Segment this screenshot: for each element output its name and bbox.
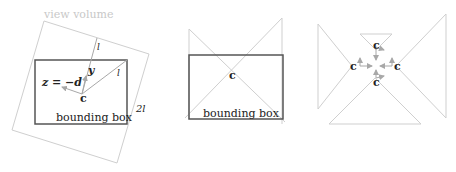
center-c-label: c — [80, 92, 87, 105]
view-volume-label: view volume — [43, 8, 114, 21]
bounding-box-label: bounding box — [203, 107, 280, 120]
right-panel: c c c c — [318, 14, 446, 124]
left-panel: view volume l l y z = −d c 2l bounding b… — [12, 8, 149, 163]
middle-panel: c bounding box — [185, 18, 285, 124]
l-top-label: l — [97, 42, 100, 52]
bounding-box-label: bounding box — [56, 111, 133, 124]
top-c-label: c — [373, 39, 380, 52]
left-frustum-triangle — [318, 24, 352, 109]
diagram-canvas: view volume l l y z = −d c 2l bounding b… — [0, 0, 456, 172]
frustum-diag-2 — [185, 18, 282, 118]
two-l-label: 2l — [135, 103, 146, 114]
y-label: y — [87, 64, 96, 77]
right-frustum-triangle — [396, 14, 446, 118]
right-c-label: c — [394, 60, 401, 73]
z-equation-label: z = −d — [41, 76, 82, 89]
center-c-label: c — [229, 69, 236, 82]
left-c-label: c — [350, 60, 357, 73]
l-diag-label: l — [117, 68, 120, 78]
bottom-c-label: c — [373, 76, 380, 89]
